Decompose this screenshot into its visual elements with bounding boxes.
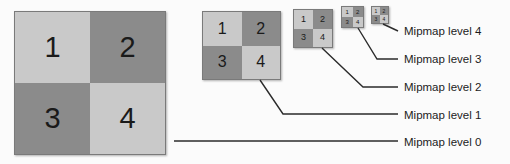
mipmap-level-0-image: 1 2 3 4 [14, 11, 166, 155]
mipmap-figure: 1 2 3 4 1 2 3 4 1 2 3 4 1 2 3 4 1 2 3 4 [0, 0, 510, 164]
mipmap-1-cell-1: 1 [203, 12, 242, 46]
mipmap-4-cell-3: 3 [372, 15, 380, 23]
mipmap-0-cell-1: 1 [15, 12, 90, 83]
mipmap-level-4-image: 1 2 3 4 [371, 6, 389, 24]
mipmap-3-cell-3: 3 [342, 17, 353, 27]
mipmap-2-cell-1: 1 [294, 10, 313, 29]
mipmap-level-1-label: Mipmap level 1 [404, 110, 481, 122]
mipmap-level-2-label: Mipmap level 2 [404, 82, 481, 94]
mipmap-2-cell-2: 2 [313, 10, 332, 29]
mipmap-level-0-label: Mipmap level 0 [404, 137, 481, 149]
mipmap-level-2-image: 1 2 3 4 [293, 9, 333, 48]
mipmap-3-cell-4: 4 [353, 17, 364, 27]
mipmap-0-cell-4: 4 [90, 83, 165, 154]
mipmap-level-3-label: Mipmap level 3 [404, 54, 481, 66]
leader-line-level-2 [322, 48, 398, 87]
mipmap-2-cell-4: 4 [313, 29, 332, 48]
mipmap-4-cell-2: 2 [380, 7, 388, 15]
mipmap-level-3-image: 1 2 3 4 [341, 6, 364, 28]
leader-line-level-4 [383, 24, 398, 31]
mipmap-1-cell-3: 3 [203, 46, 242, 80]
mipmap-3-cell-1: 1 [342, 7, 353, 17]
mipmap-0-cell-3: 3 [15, 83, 90, 154]
mipmap-0-cell-2: 2 [90, 12, 165, 83]
mipmap-3-cell-2: 2 [353, 7, 364, 17]
leader-line-level-1 [260, 80, 398, 114]
mipmap-1-cell-4: 4 [242, 46, 281, 80]
leader-line-level-3 [358, 28, 398, 59]
mipmap-4-cell-1: 1 [372, 7, 380, 15]
mipmap-level-4-label: Mipmap level 4 [404, 26, 481, 38]
mipmap-level-1-image: 1 2 3 4 [202, 11, 281, 80]
mipmap-2-cell-3: 3 [294, 29, 313, 48]
mipmap-1-cell-2: 2 [242, 12, 281, 46]
mipmap-4-cell-4: 4 [380, 15, 388, 23]
